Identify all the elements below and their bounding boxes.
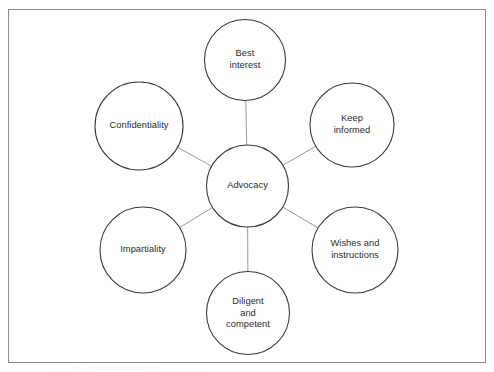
node-circle-confidentiality[interactable] [95, 82, 183, 170]
node-circle-wishes-and-instructions[interactable] [312, 207, 398, 293]
connector-advocacy-to-impartiality [180, 207, 213, 227]
node-circle-keep-informed[interactable] [310, 83, 394, 167]
node-circles [95, 20, 398, 355]
node-circle-best-interest[interactable] [205, 20, 286, 101]
node-circle-impartiality[interactable] [100, 207, 186, 293]
node-circle-advocacy[interactable] [207, 145, 289, 227]
connector-advocacy-to-wishes-and-instructions [283, 207, 318, 228]
node-circle-diligent-and-competent[interactable] [207, 272, 290, 355]
diagram-page: Best interestKeep informedWishes and ins… [0, 0, 494, 372]
connector-advocacy-to-keep-informed [283, 146, 316, 165]
diagram-canvas [0, 0, 494, 372]
connector-advocacy-to-best-interest [246, 100, 247, 145]
connector-advocacy-to-confidentiality [178, 147, 212, 166]
scan-artifact [40, 366, 220, 370]
